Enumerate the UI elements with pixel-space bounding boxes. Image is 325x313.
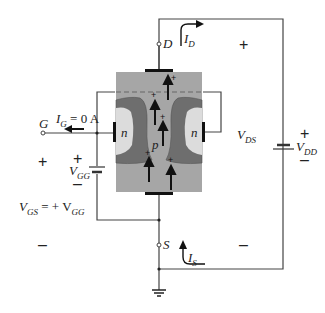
svg-text:+: + [171,73,176,83]
source-current-label: IS [188,251,197,268]
left-n-region-label: n [121,126,128,139]
source-contact [145,192,173,195]
svg-text:+: + [145,148,150,158]
vds-label: VDS [237,128,256,145]
p-channel-label: p [152,138,159,151]
source-terminal [157,243,161,247]
drain-contact [145,69,173,72]
drain-terminal [157,42,161,46]
vds-minus-sign: – [239,237,248,253]
right-gate-contact [202,122,205,142]
vgg-plus-sign: + [73,151,82,167]
svg-text:+: + [160,112,165,122]
vdd-plus-sign: + [300,126,309,142]
left-gate-contact [113,122,116,142]
vdd-minus-sign: – [300,152,309,168]
svg-text:+: + [151,90,156,100]
vgs-equation-label: VGS = + VGG [19,200,85,217]
right-n-region-label: n [191,126,198,139]
vgg-minus-sign: – [73,176,82,192]
gate-label: G [39,117,48,130]
svg-text:+: + [168,155,173,165]
vgg-battery-icon [89,167,105,172]
drain-label: D [163,37,172,50]
ground-icon [152,290,166,296]
vgs-plus-sign: + [38,154,47,170]
vds-plus-sign: + [239,37,248,53]
gate-current-label: IG = 0 A [56,112,99,129]
gate-terminal [41,131,45,135]
drain-current-label: ID [184,32,195,49]
vgs-minus-sign: – [38,237,47,253]
source-label: S [163,238,170,251]
